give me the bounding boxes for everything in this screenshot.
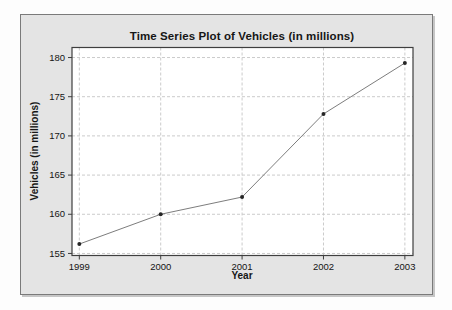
y-tick-label: 175 <box>49 91 65 102</box>
chart-title: Time Series Plot of Vehicles (in million… <box>130 30 354 42</box>
x-tick-label: 2003 <box>394 261 415 272</box>
x-axis-label: Year <box>231 270 252 281</box>
x-tick-label: 2000 <box>150 261 171 272</box>
y-tick-label: 165 <box>49 169 65 180</box>
y-tick-label: 160 <box>49 208 65 219</box>
y-tick-label: 155 <box>49 248 65 259</box>
time-series-plot: 15516016517017518019992000200120022003 <box>21 15 434 296</box>
data-point <box>321 112 325 116</box>
y-tick-label: 170 <box>49 130 65 141</box>
graph-window: 15516016517017518019992000200120022003 T… <box>0 0 452 310</box>
y-axis-label: Vehicles (in millions) <box>29 102 40 201</box>
data-point <box>240 195 244 199</box>
data-point <box>77 242 81 246</box>
x-tick-label: 1999 <box>69 261 90 272</box>
data-point <box>159 212 163 216</box>
chart-panel: 15516016517017518019992000200120022003 T… <box>20 14 433 295</box>
x-tick-label: 2002 <box>313 261 334 272</box>
data-point <box>403 61 407 65</box>
y-tick-label: 180 <box>49 52 65 63</box>
